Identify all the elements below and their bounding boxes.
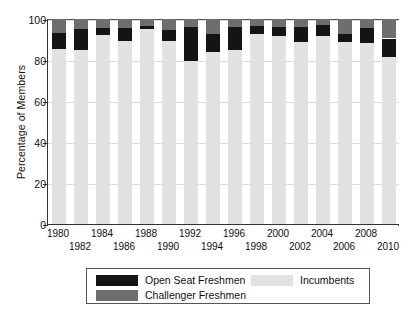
bar-segment-challenger-freshmen	[316, 19, 330, 25]
legend-swatch-incumbents-icon	[251, 275, 293, 286]
bar-column	[294, 19, 308, 224]
bar-column	[338, 19, 352, 224]
bar-column	[206, 19, 220, 224]
x-axis-tick-label: 1984	[85, 228, 119, 239]
x-axis-tick-label: 2002	[283, 241, 317, 252]
x-axis-tick-label: 2000	[261, 228, 295, 239]
x-axis-tick-label: 1980	[41, 228, 75, 239]
x-axis-tick-label: 1996	[217, 228, 251, 239]
bar-segment-open-seat-freshmen	[360, 28, 374, 42]
x-axis-tick-label: 1982	[63, 241, 97, 252]
x-axis-tick-label: 1988	[129, 228, 163, 239]
bar-column	[96, 19, 110, 224]
bar-segment-incumbents	[382, 57, 396, 224]
bar-segment-open-seat-freshmen	[184, 27, 198, 61]
bar-segment-challenger-freshmen	[294, 19, 308, 27]
bar-column	[228, 19, 242, 224]
bar-segment-challenger-freshmen	[118, 19, 132, 28]
bar-segment-incumbents	[294, 42, 308, 224]
bar-segment-incumbents	[338, 42, 352, 224]
y-axis-tick-label: 40	[20, 137, 46, 149]
x-axis-tick-label: 1998	[239, 241, 273, 252]
x-axis-tick-label: 1986	[107, 241, 141, 252]
bar-segment-challenger-freshmen	[382, 19, 396, 38]
bar-segment-open-seat-freshmen	[250, 26, 264, 34]
legend-swatch-open-icon	[96, 275, 138, 286]
bar-segment-challenger-freshmen	[52, 19, 66, 33]
x-axis-tick-label: 1992	[173, 228, 207, 239]
bar-segment-incumbents	[360, 43, 374, 224]
legend-swatch-challenger-icon	[96, 290, 138, 301]
legend-item-open-seat-freshmen: Open Seat Freshmen	[96, 274, 245, 286]
bar-segment-challenger-freshmen	[184, 19, 198, 27]
bar-column	[162, 19, 176, 224]
bar-segment-challenger-freshmen	[338, 19, 352, 34]
bar-segment-incumbents	[316, 36, 330, 224]
bar-segment-incumbents	[250, 34, 264, 224]
legend-label: Open Seat Freshmen	[145, 274, 245, 286]
bar-segment-open-seat-freshmen	[228, 27, 242, 50]
x-axis-tick-label: 2006	[327, 241, 361, 252]
bar-column	[250, 19, 264, 224]
x-axis-tick-label: 2004	[305, 228, 339, 239]
bar-column	[360, 19, 374, 224]
legend-label: Incumbents	[300, 274, 354, 286]
bar-segment-open-seat-freshmen	[52, 33, 66, 48]
y-axis-tick-label: 20	[20, 178, 46, 190]
chart-legend: Open Seat Freshmen Challenger Freshmen I…	[86, 268, 370, 304]
bar-segment-incumbents	[162, 41, 176, 224]
x-axis-tick-label: 1990	[151, 241, 185, 252]
bar-segment-incumbents	[118, 41, 132, 224]
y-axis-title: Percentage of Members	[15, 47, 27, 197]
bar-segment-incumbents	[206, 52, 220, 224]
bar-segment-incumbents	[96, 35, 110, 224]
bar-segment-open-seat-freshmen	[316, 25, 330, 36]
bar-segment-open-seat-freshmen	[118, 28, 132, 40]
legend-item-challenger-freshmen: Challenger Freshmen	[96, 289, 246, 301]
bar-series-group	[48, 20, 399, 224]
bar-segment-open-seat-freshmen	[338, 34, 352, 41]
x-axis-tick-label: 2008	[349, 228, 383, 239]
bar-segment-open-seat-freshmen	[294, 27, 308, 41]
bar-column	[52, 19, 66, 224]
bar-column	[118, 19, 132, 224]
bar-segment-challenger-freshmen	[96, 19, 110, 28]
bar-segment-challenger-freshmen	[140, 19, 154, 26]
y-axis-tick-label: 80	[20, 55, 46, 67]
chart-figure: Percentage of Members 020406080100 19801…	[0, 0, 417, 313]
bar-segment-challenger-freshmen	[272, 19, 286, 27]
bar-segment-open-seat-freshmen	[74, 29, 88, 50]
bar-column	[184, 19, 198, 224]
bar-column	[316, 19, 330, 224]
bar-segment-challenger-freshmen	[162, 19, 176, 30]
bar-column	[74, 19, 88, 224]
bar-segment-incumbents	[228, 50, 242, 224]
x-axis-tick-label: 1994	[195, 241, 229, 252]
plot-area: 020406080100	[47, 20, 399, 225]
bar-column	[272, 19, 286, 224]
bar-segment-challenger-freshmen	[360, 19, 374, 28]
bar-segment-incumbents	[272, 36, 286, 224]
bar-column	[382, 19, 396, 224]
bar-segment-open-seat-freshmen	[382, 39, 396, 57]
bar-segment-incumbents	[140, 29, 154, 224]
bar-segment-incumbents	[52, 49, 66, 224]
legend-label: Challenger Freshmen	[145, 289, 246, 301]
bar-segment-incumbents	[74, 50, 88, 224]
bar-segment-open-seat-freshmen	[272, 27, 286, 36]
legend-item-incumbents: Incumbents	[251, 274, 354, 286]
bar-segment-open-seat-freshmen	[96, 28, 110, 35]
bar-segment-open-seat-freshmen	[140, 26, 154, 29]
bar-segment-open-seat-freshmen	[206, 34, 220, 51]
bar-column	[140, 19, 154, 224]
bar-segment-challenger-freshmen	[74, 19, 88, 29]
bar-segment-open-seat-freshmen	[162, 30, 176, 40]
x-axis-tick-label: 2010	[371, 241, 405, 252]
bar-segment-incumbents	[184, 61, 198, 224]
bar-segment-challenger-freshmen	[228, 19, 242, 27]
bar-segment-challenger-freshmen	[206, 19, 220, 34]
bar-segment-challenger-freshmen	[250, 19, 264, 26]
y-axis-tick-label: 100	[20, 14, 46, 26]
y-axis-tick-label: 60	[20, 96, 46, 108]
